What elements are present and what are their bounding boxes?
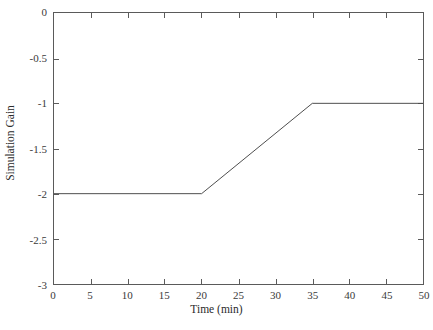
x-tick-label: 45 bbox=[381, 290, 392, 301]
figure: Simulation Gain 0-0.5-1-1.5-2-2.5-3 0510… bbox=[0, 0, 433, 330]
y-tick-label: -0.5 bbox=[30, 52, 47, 63]
y-tick-label: -2 bbox=[38, 189, 47, 200]
x-tick-label: 50 bbox=[419, 290, 430, 301]
x-tick-label: 30 bbox=[270, 290, 281, 301]
y-axis-title: Simulation Gain bbox=[4, 105, 16, 181]
tick-marks bbox=[54, 13, 423, 284]
x-tick-label: 40 bbox=[344, 290, 355, 301]
x-tick-label: 20 bbox=[196, 290, 207, 301]
y-tick-label: 0 bbox=[42, 7, 48, 18]
plot-area bbox=[53, 12, 424, 285]
y-tick-label: -1.5 bbox=[30, 143, 47, 154]
data-series-group bbox=[54, 103, 423, 193]
x-tick-label: 5 bbox=[87, 290, 93, 301]
data-line-0 bbox=[54, 103, 423, 193]
x-tick-label: 15 bbox=[159, 290, 170, 301]
y-axis-title-container: Simulation Gain bbox=[0, 0, 20, 285]
x-tick-label: 0 bbox=[50, 290, 56, 301]
x-axis-title: Time (min) bbox=[0, 303, 433, 315]
y-tick-label: -2.5 bbox=[30, 234, 47, 245]
x-tick-label: 10 bbox=[122, 290, 133, 301]
plot-svg bbox=[54, 13, 423, 284]
x-tick-label: 35 bbox=[307, 290, 318, 301]
y-tick-label: -1 bbox=[38, 98, 47, 109]
x-tick-label: 25 bbox=[233, 290, 244, 301]
y-tick-label: -3 bbox=[38, 280, 47, 291]
